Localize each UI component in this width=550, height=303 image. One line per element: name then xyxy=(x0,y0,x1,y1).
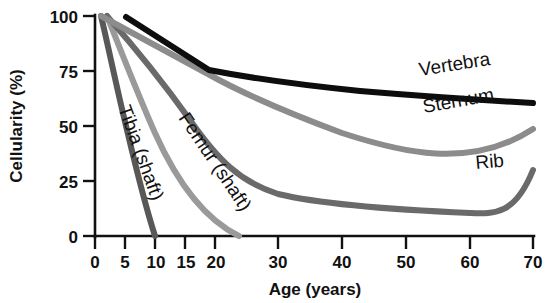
x-tick-label-10: 10 xyxy=(147,253,166,272)
y-axis-tick-labels: 100 75 50 25 0 xyxy=(50,8,78,247)
x-tick-label-15: 15 xyxy=(177,253,196,272)
x-tick-label-20: 20 xyxy=(207,253,226,272)
x-tick-label-0: 0 xyxy=(90,253,99,272)
x-tick-label-30: 30 xyxy=(269,253,288,272)
cellularity-vs-age-chart: 100 75 50 25 0 0 5 10 15 20 30 4 xyxy=(0,0,550,303)
y-axis-title: Cellularity (%) xyxy=(7,69,26,182)
series-curves xyxy=(101,16,533,236)
y-tick-label-50: 50 xyxy=(59,118,78,137)
x-axis-ticks xyxy=(95,236,533,249)
y-tick-label-100: 100 xyxy=(50,8,78,27)
series-label-vertebra: Vertebra xyxy=(417,48,492,80)
x-tick-label-70: 70 xyxy=(524,253,543,272)
series-label-sternum: Sternum xyxy=(421,84,495,117)
x-axis-tick-labels: 0 5 10 15 20 30 40 50 60 70 xyxy=(90,253,542,272)
chart-canvas: 100 75 50 25 0 0 5 10 15 20 30 4 xyxy=(0,0,550,303)
y-tick-label-25: 25 xyxy=(59,173,78,192)
y-tick-label-0: 0 xyxy=(69,228,78,247)
x-tick-label-60: 60 xyxy=(461,253,480,272)
x-tick-label-5: 5 xyxy=(120,253,129,272)
x-tick-label-40: 40 xyxy=(333,253,352,272)
series-label-rib: Rib xyxy=(475,150,505,173)
y-axis-ticks xyxy=(83,16,95,236)
x-axis-title: Age (years) xyxy=(269,280,362,299)
y-tick-label-75: 75 xyxy=(59,63,78,82)
series-label-femur-shaft: Femur (shaft) xyxy=(175,108,256,214)
x-tick-label-50: 50 xyxy=(397,253,416,272)
